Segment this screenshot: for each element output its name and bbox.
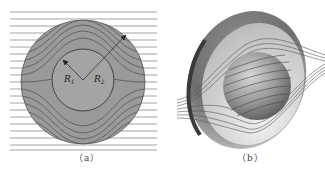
cross-section-diagram: R1 R2 xyxy=(0,0,165,173)
panel-b-3d-cutaway: （b） xyxy=(165,0,325,173)
caption-b: （b） xyxy=(237,151,264,164)
cutaway-diagram xyxy=(165,0,325,173)
caption-a: （a） xyxy=(74,151,100,164)
panel-a-cross-section: R1 R2 （a） xyxy=(0,0,165,173)
